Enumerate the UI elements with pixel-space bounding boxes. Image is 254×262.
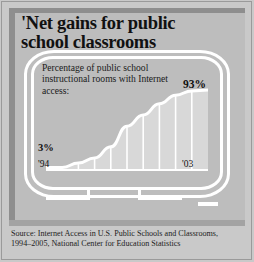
infographic: 'Net gains for public school classrooms … [0, 0, 254, 262]
monitor-stand-base-left [46, 197, 90, 200]
page-title: 'Net gains for public school classrooms [21, 14, 221, 52]
chart-svg [46, 84, 208, 170]
source-line-2: 1994–2005, National Center for Education… [11, 239, 245, 249]
chart-start-value-label: 3% [38, 142, 54, 153]
chart-baseline-axis [46, 169, 208, 171]
chart-plot [46, 84, 208, 170]
source-divider-band [9, 220, 245, 226]
chart-start-year-label: '94 [38, 159, 49, 169]
chart-end-value-label: 93% [183, 78, 206, 90]
monitor-stand-base-right [138, 197, 182, 200]
chart-end-year-label: '03 [182, 159, 193, 169]
source-note: Source: Internet Access in U.S. Public S… [11, 229, 245, 249]
monitor-foot-accent [198, 202, 218, 206]
source-line-1: Source: Internet Access in U.S. Public S… [11, 229, 245, 239]
